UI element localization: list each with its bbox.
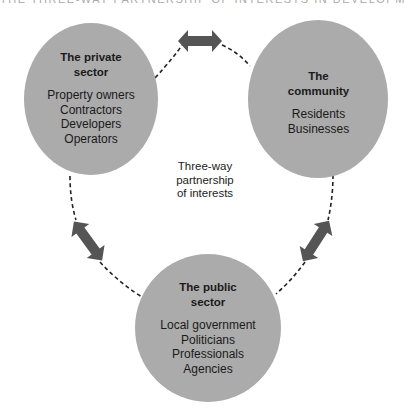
community-title: The community bbox=[256, 69, 381, 99]
list-item: Agencies bbox=[138, 362, 278, 377]
double-arrow-icon bbox=[178, 30, 222, 52]
partnership-diagram: THE THREE-WAY PARTNERSHIP OF INTERESTS I… bbox=[0, 0, 404, 418]
public-sector-node: The public sector Local government Polit… bbox=[138, 280, 278, 376]
public-sector-title: The public sector bbox=[138, 280, 278, 310]
list-item: Contractors bbox=[26, 103, 156, 118]
double-arrow-icon bbox=[65, 215, 111, 267]
list-item: Professionals bbox=[138, 347, 278, 362]
private-sector-title: The private sector bbox=[26, 50, 156, 80]
list-item: Politicians bbox=[138, 333, 278, 348]
center-label: Three-way partnership of interests bbox=[150, 160, 260, 201]
double-arrow-icon bbox=[294, 215, 339, 267]
list-item: Property owners bbox=[26, 88, 156, 103]
list-item: Residents bbox=[256, 107, 381, 122]
list-item: Local government bbox=[138, 318, 278, 333]
private-sector-node: The private sector Property owners Contr… bbox=[26, 50, 156, 146]
list-item: Businesses bbox=[256, 122, 381, 137]
community-node: The community Residents Businesses bbox=[256, 69, 381, 136]
list-item: Developers bbox=[26, 117, 156, 132]
list-item: Operators bbox=[26, 132, 156, 147]
